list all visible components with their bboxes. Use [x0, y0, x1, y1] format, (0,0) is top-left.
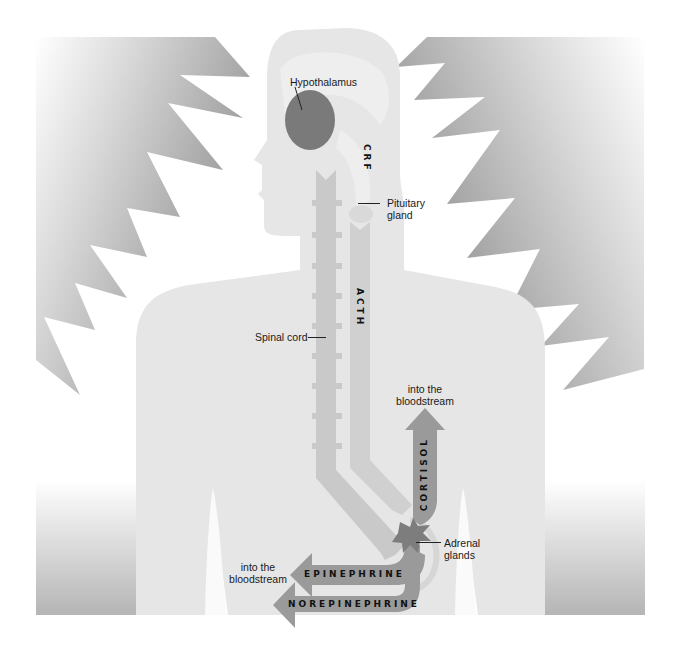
- label-acth: ACTH: [355, 288, 365, 327]
- label-cortisol-destination-line2: bloodstream: [390, 395, 460, 407]
- label-epinephrine-destination-line2: bloodstream: [228, 573, 288, 585]
- label-pituitary-line2: gland: [387, 209, 413, 221]
- spinal-cord-leader: [308, 337, 326, 338]
- label-epinephrine-destination-line1: into the: [228, 561, 288, 573]
- label-cortisol: CORTISOL: [419, 437, 429, 511]
- hypothalamus-shape: [285, 90, 335, 150]
- pituitary-leader: [358, 203, 380, 204]
- label-cortisol-destination-line1: into the: [390, 383, 460, 395]
- label-adrenal-line1: Adrenal: [444, 537, 480, 549]
- label-adrenal-line2: glands: [444, 549, 475, 561]
- label-hypothalamus: Hypothalamus: [290, 76, 357, 88]
- label-crf: CRF: [362, 144, 372, 173]
- diagram-canvas: [0, 0, 680, 653]
- stress-pathway-diagram: Hypothalamus CRF Pituitary gland ACTH Sp…: [0, 0, 680, 653]
- adrenal-leader: [416, 542, 441, 543]
- label-norepinephrine: NOREPINEPHRINE: [288, 599, 420, 609]
- label-epinephrine: EPINEPHRINE: [304, 569, 405, 579]
- pituitary-gland-shape: [349, 205, 373, 223]
- label-pituitary-line1: Pituitary: [387, 197, 425, 209]
- label-spinal-cord: Spinal cord: [255, 331, 308, 343]
